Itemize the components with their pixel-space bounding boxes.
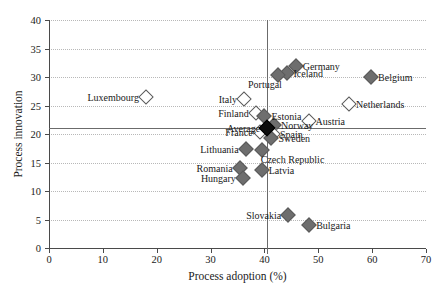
x-tick-10 [103, 249, 104, 253]
y-tick-15 [45, 163, 49, 164]
x-axis-title: Process adoption (%) [188, 270, 286, 282]
x-tick-50 [318, 249, 319, 253]
y-tick-label-25: 25 [31, 100, 42, 111]
y-tick-5 [45, 220, 49, 221]
data-point-lithuania[interactable] [238, 141, 254, 157]
y-tick-label-40: 40 [31, 15, 42, 26]
x-axis-line [49, 248, 426, 249]
data-label-portugal: Portugal [248, 79, 282, 90]
x-tick-20 [157, 249, 158, 253]
data-label-belgium: Belgium [378, 72, 412, 83]
x-tick-label-10: 10 [98, 254, 109, 265]
x-tick-label-40: 40 [259, 254, 270, 265]
data-label-iceland: Iceland [294, 68, 323, 79]
gridline-y-35 [49, 49, 426, 50]
x-tick-label-50: 50 [313, 254, 324, 265]
y-tick-label-30: 30 [31, 72, 42, 83]
y-tick-10 [45, 191, 49, 192]
y-tick-label-0: 0 [36, 243, 41, 254]
data-label-france: France [225, 127, 252, 138]
y-tick-label-5: 5 [36, 214, 41, 225]
y-tick-40 [45, 20, 49, 21]
data-label-italy: Italy [219, 94, 237, 105]
data-label-hungary: Hungary [201, 172, 236, 183]
x-tick-label-0: 0 [46, 254, 51, 265]
data-label-slovakia: Slovakia [246, 209, 281, 220]
data-label-sweden: Sweden [278, 132, 310, 143]
data-label-bulgaria: Bulgaria [316, 220, 350, 231]
y-tick-label-20: 20 [31, 129, 42, 140]
y-tick-label-15: 15 [31, 157, 42, 168]
scatter-chart: Process adoption (%) Process innovation … [0, 0, 444, 305]
x-tick-60 [372, 249, 373, 253]
data-label-latvia: Latvia [269, 164, 295, 175]
data-label-netherlands: Netherlands [356, 98, 404, 109]
y-axis-title: Process innovation [12, 90, 24, 177]
y-tick-20 [45, 134, 49, 135]
x-tick-label-70: 70 [421, 254, 432, 265]
y-tick-label-10: 10 [31, 186, 42, 197]
y-tick-25 [45, 106, 49, 107]
gridline-y-10 [49, 191, 426, 192]
x-tick-40 [264, 249, 265, 253]
x-tick-label-30: 30 [205, 254, 216, 265]
x-tick-0 [49, 249, 50, 253]
gridline-y-40 [49, 20, 426, 21]
y-tick-30 [45, 77, 49, 78]
y-axis-line [49, 20, 50, 248]
data-point-luxembourg[interactable] [138, 89, 154, 105]
data-label-czech-republic: Czech Republic [261, 153, 325, 164]
x-tick-30 [211, 249, 212, 253]
data-label-luxembourg: Luxembourg [87, 91, 138, 102]
data-label-finland: Finland [218, 108, 249, 119]
x-tick-70 [426, 249, 427, 253]
gridline-y-5 [49, 220, 426, 221]
data-label-lithuania: Lithuania [200, 143, 238, 154]
y-tick-label-35: 35 [31, 43, 42, 54]
x-tick-label-20: 20 [151, 254, 162, 265]
x-tick-label-60: 60 [367, 254, 378, 265]
y-tick-35 [45, 49, 49, 50]
data-point-netherlands[interactable] [341, 96, 357, 112]
data-point-belgium[interactable] [363, 69, 379, 85]
data-label-austria: Austria [316, 116, 345, 127]
